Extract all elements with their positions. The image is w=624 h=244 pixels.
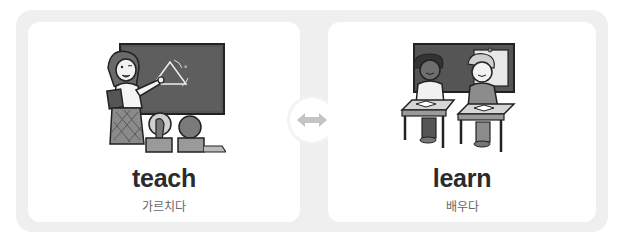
card-learn: learn 배우다 xyxy=(328,22,596,222)
word-english: learn xyxy=(328,164,596,193)
teacher-at-chalkboard-illustration: a xyxy=(102,42,226,154)
word-korean: 배우다 xyxy=(328,197,596,214)
students-at-desks-illustration xyxy=(400,42,524,154)
double-arrow-icon xyxy=(297,112,327,128)
word-english: teach xyxy=(28,164,300,193)
svg-text:a: a xyxy=(184,63,187,69)
word-korean: 가르치다 xyxy=(28,197,300,214)
card-teach: a teach xyxy=(28,22,300,222)
